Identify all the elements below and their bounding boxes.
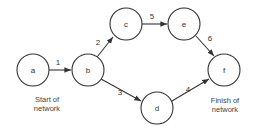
edge-label-4: 4 (186, 85, 191, 94)
node-f: f (208, 54, 240, 86)
start-caption-line1: Start of (35, 95, 60, 104)
network-diagram: 1 2 3 4 5 6 a b c d e f Start (0, 0, 254, 132)
node-b: b (72, 54, 104, 86)
node-a: a (17, 54, 49, 86)
svg-text:a: a (31, 66, 36, 75)
edge-label-1: 1 (56, 58, 61, 67)
edge-d-f (172, 79, 209, 101)
edge-label-2: 2 (96, 38, 101, 47)
node-c: c (110, 8, 142, 40)
node-e: e (168, 8, 200, 40)
svg-text:c: c (124, 20, 128, 29)
finish-caption-line2: network (212, 105, 239, 114)
svg-text:d: d (155, 104, 159, 113)
edge-label-5: 5 (150, 12, 155, 21)
finish-caption-line1: Finish of (211, 96, 240, 105)
start-caption-line2: network (34, 104, 61, 113)
edge-label-3: 3 (118, 88, 123, 97)
edge-label-6: 6 (208, 34, 213, 43)
node-d: d (141, 92, 173, 124)
svg-text:b: b (86, 66, 91, 75)
svg-text:e: e (182, 20, 187, 29)
